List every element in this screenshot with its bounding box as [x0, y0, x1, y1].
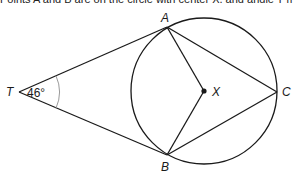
chord-bc: [167, 92, 277, 155]
tangent-ta: [19, 27, 167, 92]
center-point-x: [201, 88, 206, 93]
tangent-tb: [19, 92, 167, 155]
angle-t-arc: [56, 76, 59, 108]
chord-ac: [167, 27, 277, 92]
label-t: T: [6, 85, 15, 99]
label-a: A: [160, 11, 169, 25]
angle-t-measure: 46°: [27, 86, 45, 100]
geometry-diagram: A B C X T 46°: [0, 0, 293, 175]
label-x: X: [211, 85, 221, 99]
radius-ax: [167, 27, 204, 91]
radius-bx: [167, 91, 204, 155]
label-b: B: [161, 160, 169, 174]
label-c: C: [282, 85, 291, 99]
